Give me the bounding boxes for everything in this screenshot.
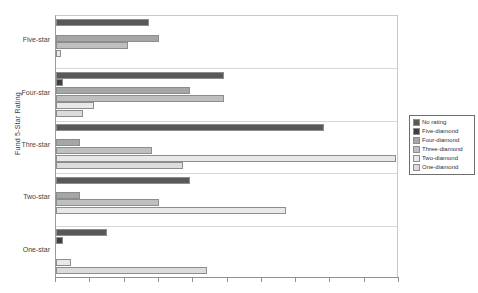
x-axis-tick xyxy=(329,277,330,282)
bar xyxy=(56,267,207,274)
x-axis-tick xyxy=(261,277,262,282)
category-label: One-star xyxy=(23,246,50,253)
x-axis-tick xyxy=(55,277,56,282)
bar xyxy=(56,139,80,146)
legend-label: No rating xyxy=(422,118,446,127)
bar xyxy=(56,102,94,109)
legend-item[interactable]: Three-diamond xyxy=(413,145,472,154)
bar xyxy=(56,50,61,57)
legend-swatch-icon xyxy=(413,128,420,135)
bar xyxy=(56,237,63,244)
legend-label: One-diamond xyxy=(422,163,458,172)
bar xyxy=(56,162,183,169)
bar-group xyxy=(56,16,397,68)
chart-legend: No ratingFive-diamondFour-diamondThree-d… xyxy=(409,115,475,175)
bar-group xyxy=(56,121,397,173)
bar-chart: Fund 5-Star Rating Five-starFour-starThr… xyxy=(0,0,478,293)
bar xyxy=(56,155,396,162)
bar-group xyxy=(56,68,397,120)
bar-group xyxy=(56,173,397,225)
legend-label: Five-diamond xyxy=(422,127,458,136)
legend-item[interactable]: One-diamond xyxy=(413,163,472,172)
legend-swatch-icon xyxy=(413,155,420,162)
bar xyxy=(56,192,80,199)
bar xyxy=(56,95,224,102)
bar xyxy=(56,259,71,266)
legend-swatch-icon xyxy=(413,146,420,153)
bar xyxy=(56,199,159,206)
bar-group xyxy=(56,226,397,278)
bar xyxy=(56,177,190,184)
bar xyxy=(56,110,83,117)
bar xyxy=(56,19,149,26)
legend-swatch-icon xyxy=(413,137,420,144)
legend-item[interactable]: No rating xyxy=(413,118,472,127)
legend-item[interactable]: Two-diamond xyxy=(413,154,472,163)
x-axis-tick xyxy=(124,277,125,282)
legend-label: Two-diamond xyxy=(422,154,458,163)
x-axis-tick xyxy=(192,277,193,282)
bar xyxy=(56,229,107,236)
legend-label: Three-diamond xyxy=(422,145,463,154)
bar xyxy=(56,124,324,131)
legend-swatch-icon xyxy=(413,164,420,171)
bar xyxy=(56,42,128,49)
bar xyxy=(56,147,152,154)
x-axis-tick xyxy=(364,277,365,282)
x-axis-tick xyxy=(227,277,228,282)
legend-swatch-icon xyxy=(413,119,420,126)
plot-area xyxy=(55,15,398,277)
x-axis-tick xyxy=(89,277,90,282)
legend-item[interactable]: Four-diamond xyxy=(413,136,472,145)
bar xyxy=(56,72,224,79)
bar xyxy=(56,87,190,94)
chart-title xyxy=(60,0,400,1)
category-axis-labels: Five-starFour-starThre-starTwo-starOne-s… xyxy=(0,15,52,277)
category-label: Thre-star xyxy=(22,141,50,148)
category-label: Two-star xyxy=(23,193,50,200)
x-axis-tick xyxy=(295,277,296,282)
x-axis-tick xyxy=(398,277,399,282)
category-label: Five-star xyxy=(23,36,50,43)
x-axis-tick xyxy=(158,277,159,282)
category-label: Four-star xyxy=(22,89,50,96)
bar xyxy=(56,79,63,86)
bar xyxy=(56,207,286,214)
bar xyxy=(56,35,159,42)
legend-label: Four-diamond xyxy=(422,136,459,145)
legend-item[interactable]: Five-diamond xyxy=(413,127,472,136)
